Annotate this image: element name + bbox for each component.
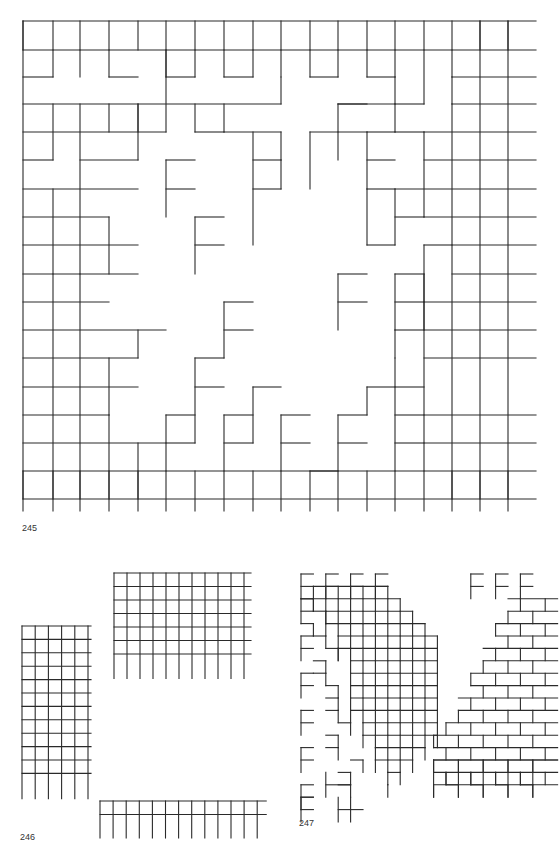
- figure-label-245: 245: [22, 523, 37, 533]
- figure-label-246: 246: [20, 832, 35, 842]
- figure-245-grid: [23, 21, 536, 511]
- figure-label-247: 247: [299, 818, 314, 828]
- figure-247-grids: [301, 574, 558, 822]
- figure-246-grids: [22, 573, 266, 838]
- pattern-plate: [0, 0, 559, 856]
